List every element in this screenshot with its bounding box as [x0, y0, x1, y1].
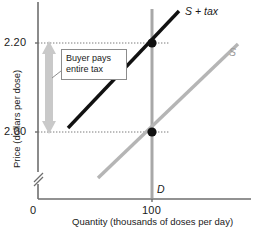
supply-demand-tax-chart: Price (dollars per dose) 2.20 2.00 0 100…: [0, 0, 254, 228]
callout-leader-line: [52, 71, 61, 78]
buyer-pays-entire-tax-callout: Buyer pays entire tax: [61, 49, 127, 80]
equilibrium-point-no-tax: [147, 127, 156, 136]
y-tick-label-200: 2.00: [4, 126, 26, 137]
y-tick-label-220: 2.20: [4, 37, 26, 48]
curve-label-demand: D: [157, 184, 165, 195]
equilibrium-point-with-tax: [147, 38, 156, 47]
callout-line-1: Buyer pays: [66, 53, 122, 64]
x-tick-label-100: 100: [142, 205, 161, 216]
x-axis-title: Quantity (thousands of doses per day): [72, 217, 233, 227]
curve-label-supply: S: [229, 47, 236, 58]
y-axis-title: Price (dollars per dose): [12, 70, 22, 168]
tax-span-arrow: [42, 41, 56, 134]
callout-line-2: entire tax: [66, 64, 122, 75]
chart-canvas: [0, 0, 254, 228]
curve-label-supply-plus-tax: S + tax: [185, 6, 218, 17]
x-tick-label-0: 0: [30, 205, 36, 216]
y-axis-break-icon: [34, 172, 43, 186]
